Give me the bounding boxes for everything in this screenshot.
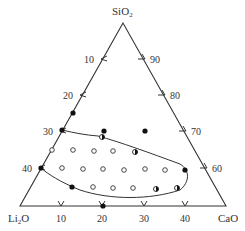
data-point-open	[60, 166, 65, 171]
vertex-label-li2o: Li2O	[8, 212, 29, 226]
data-point-open	[92, 149, 97, 154]
data-point-filled	[100, 203, 105, 208]
bottom-axis-tick-label: 10	[56, 213, 66, 224]
triangle-outline	[20, 23, 226, 206]
left-axis-tick-label: 30	[43, 126, 53, 137]
data-point-filled	[38, 165, 43, 170]
left-axis-tick-label: 10	[84, 54, 94, 65]
right-axis-tick-label: 70	[191, 126, 201, 137]
ternary-diagram: 102030409080706010203040 SiO2 Li2O CaO	[0, 0, 245, 231]
data-point-half	[133, 150, 138, 155]
data-point-open	[101, 167, 106, 172]
bottom-axis-tick-label: 20	[97, 213, 107, 224]
right-axis-tick-label: 80	[170, 90, 180, 101]
bottom-axis-tick-label: 30	[139, 213, 149, 224]
bottom-axis-tick	[141, 201, 147, 206]
vertex-label-sio2: SiO2	[112, 5, 133, 19]
data-point-open	[163, 168, 168, 173]
data-point-open	[111, 186, 116, 191]
data-point-open	[91, 185, 96, 190]
bottom-axis-tick	[58, 201, 64, 206]
data-point-open	[81, 167, 86, 172]
data-point-open	[111, 149, 116, 154]
data-point-half	[154, 187, 159, 192]
data-point-filled	[69, 184, 74, 189]
left-axis-tick-label: 40	[22, 163, 32, 174]
left-axis-tick-label: 20	[63, 90, 73, 101]
vertex-label-cao: CaO	[218, 212, 238, 224]
axis-tick-labels: 102030409080706010203040	[22, 54, 222, 224]
data-point-filled	[101, 128, 106, 133]
data-point-filled	[142, 128, 147, 133]
data-point-open	[50, 148, 55, 153]
data-point-half	[175, 186, 180, 191]
data-point-half	[100, 135, 105, 140]
data-point-filled	[59, 127, 64, 132]
data-point-filled	[182, 167, 187, 172]
right-axis-tick-label: 60	[212, 163, 222, 174]
data-point-open	[122, 168, 127, 173]
data-point-filled	[70, 110, 75, 115]
bottom-axis-tick-label: 40	[180, 213, 190, 224]
bottom-axis-tick	[182, 201, 188, 206]
data-point-open	[131, 186, 136, 191]
right-axis-tick-label: 90	[150, 54, 160, 65]
data-point-open	[143, 167, 148, 172]
data-point-open	[71, 148, 76, 153]
